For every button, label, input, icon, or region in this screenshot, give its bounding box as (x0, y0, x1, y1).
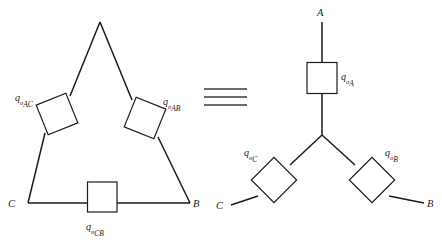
delta-wye-equivalence-figure: qoAC qoAB qoCB C B (0, 0, 442, 245)
delta-element-q-o-cb-label: qoCB (86, 221, 104, 238)
wye-element-q-o-a-box (307, 63, 337, 94)
delta-element-q-o-cb-box (88, 182, 118, 212)
q-subscript-index: A (348, 79, 354, 88)
q-subscript-index: AC (22, 100, 34, 109)
delta-vertex-label-c: C (8, 198, 16, 209)
wye-terminal-label-b: B (427, 198, 434, 209)
wye-element-q-o-b-box (349, 157, 394, 202)
wye-element-q-o-c-label: qoC (244, 147, 258, 164)
delta-wire-a-to-ab-box (100, 22, 132, 100)
q-subscript-index: B (393, 155, 398, 164)
delta-wire-ab-box-to-b (158, 137, 190, 203)
figure-container: qoAC qoAB qoCB C B (0, 0, 442, 245)
wye-wire-c-box-to-terminal (231, 196, 258, 205)
wye-wire-center-to-b-box (322, 135, 355, 165)
wye-terminal-label-a: A (316, 7, 324, 18)
wye-network: qoA qoC qoB A C B (216, 7, 434, 211)
wye-element-q-o-b-label: qoB (385, 147, 398, 164)
delta-element-q-o-ac-label: qoAC (15, 92, 34, 109)
wye-element-q-o-a-label: qoA (341, 71, 354, 88)
wye-wire-b-box-to-terminal (389, 196, 424, 203)
delta-element-q-o-ac-box (36, 93, 78, 135)
wye-wire-center-to-c-box (290, 135, 322, 165)
equivalence-symbol (204, 89, 247, 105)
delta-wire-ac-box-to-c (28, 133, 45, 203)
q-subscript-index: CB (94, 229, 104, 238)
q-subscript-index: AB (170, 104, 181, 113)
q-subscript-index: C (252, 155, 258, 164)
delta-element-q-o-ab-box (124, 97, 166, 139)
delta-wire-a-to-ac-box (70, 22, 100, 96)
wye-terminal-label-c: C (216, 200, 224, 211)
delta-network: qoAC qoAB qoCB C B (8, 22, 200, 238)
delta-vertex-label-b: B (193, 198, 200, 209)
